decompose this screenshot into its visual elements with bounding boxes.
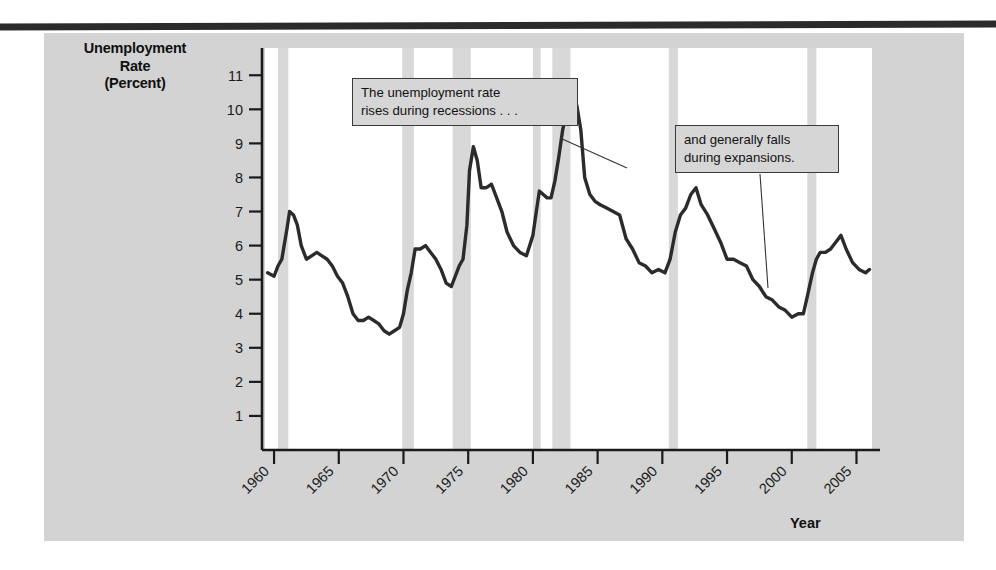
x-axis-ticks: 1960196519701975198019851990199520002005: [238, 450, 856, 497]
y-tick-label-8: 9: [235, 136, 243, 152]
y-tick-label-3: 4: [235, 306, 243, 322]
x-tick-label-7: 1995: [691, 463, 725, 497]
x-tick-label-0: 1960: [238, 463, 272, 497]
y-axis-title-line1: Unemployment: [60, 40, 210, 58]
x-tick-label-1: 1965: [303, 463, 337, 497]
y-tick-label-9: 10: [227, 102, 243, 118]
figure-root: 1234567891011 19601965197019751980198519…: [0, 0, 996, 570]
y-tick-label-2: 3: [235, 340, 243, 356]
y-tick-label-7: 8: [235, 170, 243, 186]
recession-band-6: [807, 48, 816, 450]
x-tick-label-9: 2005: [820, 463, 854, 497]
x-tick-label-4: 1980: [497, 463, 531, 497]
x-axis-title: Year: [790, 515, 821, 531]
y-axis-title-line2: Rate: [60, 58, 210, 76]
y-axis-ticks: 1234567891011: [227, 68, 262, 425]
x-tick-label-2: 1970: [367, 463, 401, 497]
annotation-expansions: and generally falls during expansions.: [675, 125, 839, 173]
y-tick-label-6: 7: [235, 204, 243, 220]
x-tick-label-5: 1985: [562, 463, 596, 497]
y-tick-label-1: 2: [235, 374, 243, 390]
y-tick-label-4: 5: [235, 272, 243, 288]
x-tick-label-6: 1990: [626, 463, 660, 497]
x-tick-label-3: 1975: [432, 463, 466, 497]
x-tick-label-8: 2000: [756, 463, 790, 497]
y-tick-label-5: 6: [235, 238, 243, 254]
y-axis-title: Unemployment Rate (Percent): [60, 40, 210, 93]
annotation-recessions: The unemployment rate rises during reces…: [352, 78, 578, 126]
y-tick-label-10: 11: [228, 68, 243, 84]
y-axis-title-line3: (Percent): [60, 75, 210, 93]
y-tick-label-0: 1: [235, 408, 243, 424]
